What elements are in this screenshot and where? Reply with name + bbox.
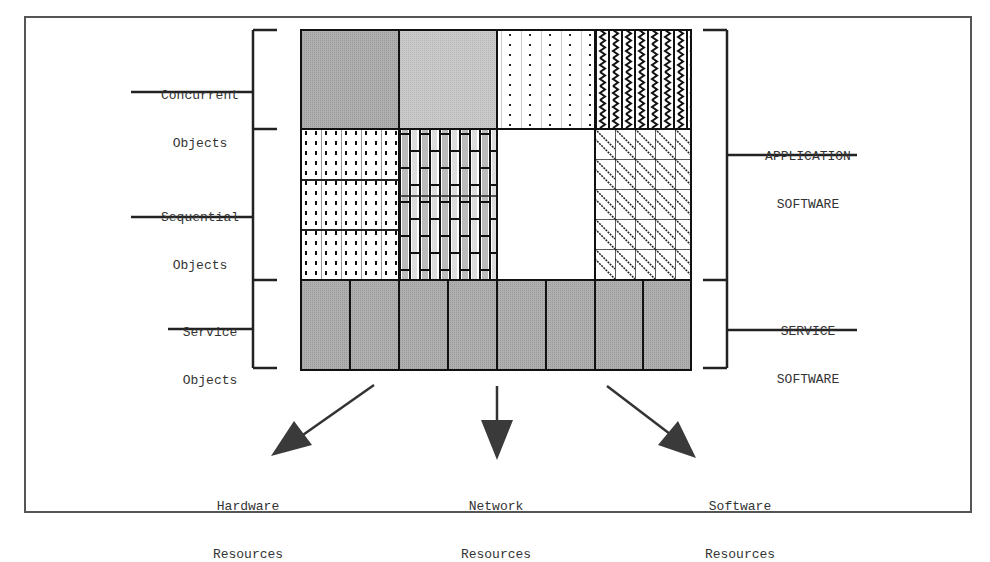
sequential-cell-2: [399, 129, 497, 280]
service-objects-row: [301, 280, 691, 370]
concurrent-cell-1: [301, 30, 399, 129]
label-service-software: SERVICE SOFTWARE: [748, 292, 868, 404]
arrow-hardware-resources: [271, 385, 374, 456]
label-hardware-resources: Hardware Resources: [198, 467, 298, 562]
arrow-network-resources: [481, 386, 513, 460]
sequential-cell-3: [497, 129, 595, 280]
concurrent-cell-3: [497, 30, 595, 129]
sequential-cell-4: [595, 129, 691, 280]
label-software-resources: Software Resources: [690, 467, 790, 562]
label-service-objects: Service Objects: [170, 293, 250, 405]
label-network-resources: Network Resources: [446, 467, 546, 562]
label-concurrent-objects: Concurrent Objects: [150, 56, 250, 168]
concurrent-cell-4: [595, 30, 691, 129]
sequential-cell-1: [301, 129, 399, 280]
concurrent-cell-2: [399, 30, 497, 129]
label-sequential-objects: Sequential Objects: [150, 178, 250, 290]
arrow-software-resources: [607, 386, 696, 458]
label-application-software: APPLICATION SOFTWARE: [748, 117, 868, 229]
